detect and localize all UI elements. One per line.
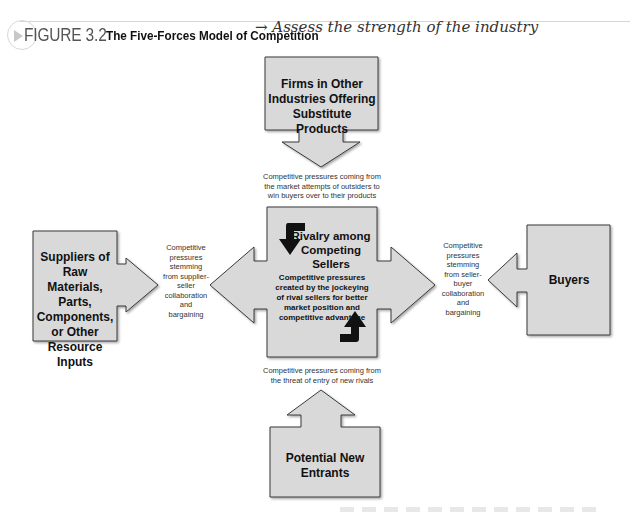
pressure-from-substitutes: Competitive pressures coming from the ma… [262,172,382,201]
pressure-from-new-entrants: Competitive pressures coming from the th… [262,366,382,385]
suppliers-label: Suppliers of Raw Materials, Parts, Compo… [34,250,116,370]
pressure-from-buyers: Competitive pressures stemming from sell… [440,241,486,317]
new-entrants-label: Potential New Entrants [276,451,374,481]
rivalry-subtitle: Competitive pressures created by the joc… [272,273,372,323]
pressure-from-suppliers: Competitive pressures stemming from supp… [163,243,209,319]
buyers-label: Buyers [530,273,608,288]
rivalry-box: Rivalry among Competing Sellers Competit… [272,229,372,323]
rivalry-title: Rivalry among Competing Sellers [272,229,372,271]
substitutes-label: Firms in Other Industries Offering Subst… [268,77,376,137]
source-caption-faint [340,507,600,512]
